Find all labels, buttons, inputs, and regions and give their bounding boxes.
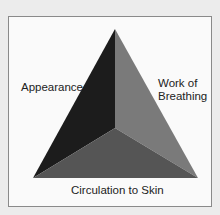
circulation-label: Circulation to Skin (71, 184, 164, 197)
assessment-triangle (0, 0, 220, 215)
work-of-breathing-line1: Work of (158, 77, 207, 90)
work-of-breathing-line2: Breathing (158, 90, 207, 103)
work-of-breathing-label: Work of Breathing (158, 77, 207, 102)
appearance-label: Appearance (21, 81, 83, 94)
